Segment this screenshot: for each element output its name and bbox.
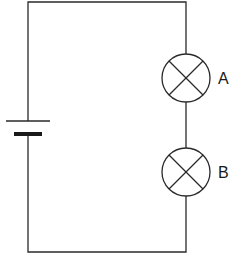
wire-top — [28, 2, 186, 121]
lamp-b-label: B — [218, 164, 229, 181]
wire-bottom — [28, 134, 186, 252]
circuit-wires — [28, 2, 186, 252]
circuit-diagram: A B — [0, 0, 236, 261]
cell-icon — [6, 121, 50, 134]
lamp-b-icon — [162, 148, 210, 196]
lamp-a-label: A — [218, 70, 229, 87]
lamp-a-icon — [162, 54, 210, 102]
